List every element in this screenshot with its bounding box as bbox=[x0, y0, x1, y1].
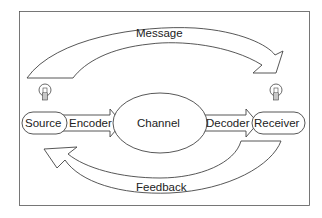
communication-diagram: Message Feedback Encoder Source Channel … bbox=[0, 0, 322, 218]
lightbulb-icon bbox=[39, 84, 51, 100]
decoder-label: Decoder bbox=[206, 117, 250, 129]
channel-label: Channel bbox=[137, 117, 180, 129]
source-label: Source bbox=[25, 117, 61, 129]
message-label: Message bbox=[136, 27, 183, 39]
receiver-label: Receiver bbox=[254, 117, 300, 129]
lightbulb-icon bbox=[270, 84, 282, 100]
encoder-label: Encoder bbox=[69, 117, 112, 129]
feedback-label: Feedback bbox=[136, 181, 187, 193]
